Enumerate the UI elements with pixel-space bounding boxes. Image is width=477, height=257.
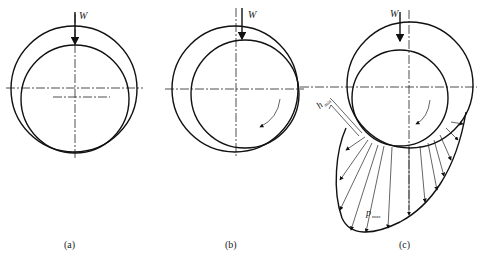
journal-bearing-diagram: W (a) W (b) W <box>0 0 477 257</box>
journal-circle <box>352 50 448 146</box>
panel-c: W h min p max (c) <box>300 8 477 251</box>
max-pressure-subscript: max <box>372 214 381 219</box>
load-label: W <box>390 8 400 19</box>
bearing-circle <box>347 22 473 148</box>
journal-circle <box>191 40 299 148</box>
min-film-subscript: min <box>323 99 333 108</box>
rotation-arrow-icon <box>416 100 430 124</box>
min-film-dimension: h min <box>314 98 362 136</box>
panel-b: W (b) <box>165 8 304 251</box>
max-pressure-label: p <box>365 207 371 218</box>
caption-b: (b) <box>225 239 237 251</box>
rotation-arrow-icon <box>260 99 280 127</box>
load-label: W <box>79 10 89 21</box>
caption-c: (c) <box>399 239 410 251</box>
caption-a: (a) <box>64 239 75 251</box>
panel-a: W (a) <box>6 10 143 251</box>
load-label: W <box>248 9 258 20</box>
pressure-distribution-curve <box>336 112 466 232</box>
